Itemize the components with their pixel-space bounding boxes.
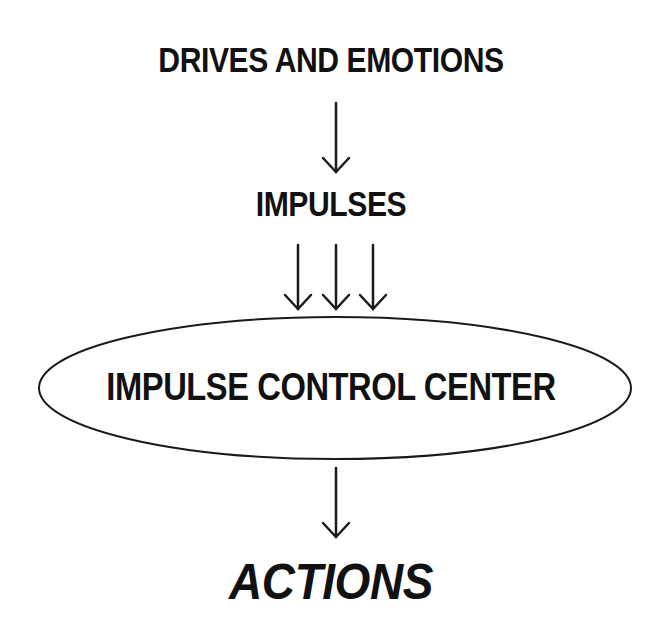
arrow-down-icon <box>360 245 386 309</box>
arrow-down-icon <box>323 103 349 172</box>
impulse-control-center-label: IMPULSE CONTROL CENTER <box>46 366 615 409</box>
diagram-connectors <box>0 0 662 632</box>
arrow-down-icon <box>323 245 349 309</box>
impulses-label: IMPULSES <box>46 184 615 224</box>
drives-and-emotions-label: DRIVES AND EMOTIONS <box>46 40 615 80</box>
impulse-control-diagram: DRIVES AND EMOTIONS IMPULSES IMPULSE CON… <box>0 0 662 632</box>
arrow-down-icon <box>285 245 311 309</box>
arrow-down-icon <box>323 468 349 537</box>
actions-label: ACTIONS <box>26 553 635 611</box>
